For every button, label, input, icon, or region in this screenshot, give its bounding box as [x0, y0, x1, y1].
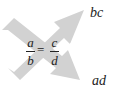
- product-ad-label: ad: [92, 74, 106, 88]
- fraction-bar: [50, 51, 59, 52]
- fraction-left: a b: [26, 36, 35, 67]
- product-bc-label: bc: [90, 6, 103, 20]
- fraction-bar: [26, 51, 35, 52]
- numerator-a: a: [27, 36, 34, 49]
- fraction-right: c d: [50, 36, 59, 67]
- denominator-d: d: [51, 54, 58, 67]
- equals-sign: =: [37, 42, 44, 58]
- denominator-b: b: [27, 54, 34, 67]
- numerator-c: c: [52, 36, 58, 49]
